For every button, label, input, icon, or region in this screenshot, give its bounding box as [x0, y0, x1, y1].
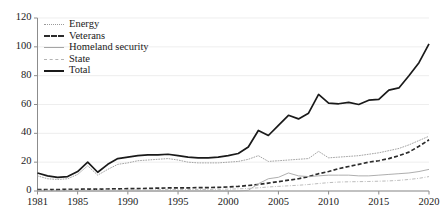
x-tick-label: 1990: [106, 196, 150, 207]
x-tick-label: 1995: [156, 196, 200, 207]
x-tick-label: 2010: [307, 196, 351, 207]
series-line-energy: [38, 136, 430, 179]
y-tick-label: 80: [0, 69, 32, 80]
y-tick-label: 20: [0, 155, 32, 166]
y-tick-label: 40: [0, 126, 32, 137]
x-tick-label: 2005: [256, 196, 300, 207]
series-line-veterans: [38, 140, 430, 190]
legend-label-energy: Energy: [69, 18, 99, 30]
legend-label-homeland-security: Homeland security: [69, 41, 149, 53]
legend-label-state: State: [69, 53, 90, 65]
legend-item-homeland-security: Homeland security: [44, 41, 174, 53]
y-tick-label: 60: [0, 98, 32, 109]
x-tick-label: 2000: [206, 196, 250, 207]
x-tick-label: 2015: [357, 196, 401, 207]
y-tick-label: 100: [0, 40, 32, 51]
legend-item-state: State: [44, 53, 174, 65]
chart-legend: Energy Veterans Homeland security State …: [44, 18, 174, 76]
legend-item-veterans: Veterans: [44, 30, 174, 42]
y-tick-label: 0: [0, 184, 32, 195]
legend-label-total: Total: [69, 64, 90, 76]
series-line-state: [38, 177, 430, 191]
x-tick-label: 1985: [56, 196, 100, 207]
legend-label-veterans: Veterans: [69, 30, 105, 42]
legend-item-energy: Energy: [44, 18, 174, 30]
x-tick-label: 1981: [16, 196, 60, 207]
y-tick-label: 120: [0, 11, 32, 22]
series-line-homeland-security: [38, 169, 430, 191]
legend-item-total: Total: [44, 64, 174, 76]
x-tick-label: 2020: [407, 196, 444, 207]
